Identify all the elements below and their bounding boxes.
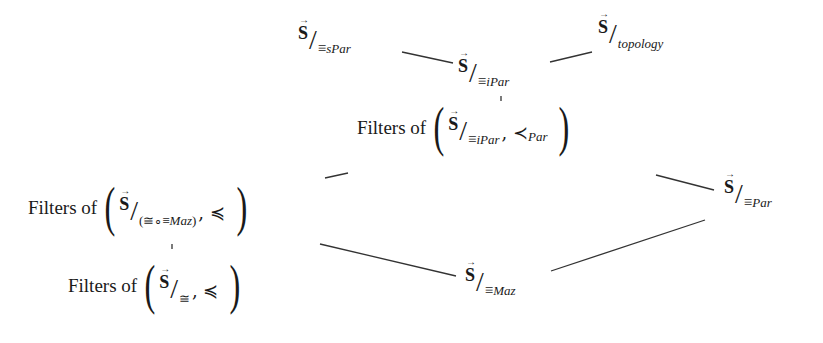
node-par: S / ≡Par xyxy=(724,176,772,204)
quotient-slash: / xyxy=(459,117,467,145)
quotient-slash: / xyxy=(130,197,138,225)
relation: , ≺Par xyxy=(502,124,548,142)
vector-s: S xyxy=(448,115,458,133)
node-spar: S / ≡sPar xyxy=(298,22,351,50)
subscript: ≡sPar xyxy=(318,41,351,56)
quotient-slash: / xyxy=(476,268,484,296)
edge-maz-par xyxy=(551,220,705,271)
quotient-slash: / xyxy=(469,59,477,87)
right-paren: ) xyxy=(230,258,241,312)
quotient-slash: / xyxy=(735,180,743,208)
node-maz: S / ≡Maz xyxy=(465,264,516,292)
left-paren: ( xyxy=(145,258,156,312)
relation: , ≼ xyxy=(192,282,218,300)
subscript: ≡iPar xyxy=(468,132,500,147)
left-paren: ( xyxy=(105,180,116,234)
quotient: S / ≅ xyxy=(159,271,190,299)
quotient-slash: / xyxy=(609,20,617,48)
subscript: topology xyxy=(618,37,664,50)
quotient: S / ≡iPar xyxy=(448,113,499,141)
node-filters-ipar: Filters of ( S / ≡iPar , ≺Par ) xyxy=(357,100,573,154)
relation: , ≼ xyxy=(198,204,224,222)
right-paren: ) xyxy=(559,100,570,154)
quotient-slash: / xyxy=(309,26,317,54)
left-paren: ( xyxy=(434,100,445,154)
vector-s: S xyxy=(458,57,468,75)
edge-filters-ipar-par xyxy=(656,175,714,190)
node-filters-congmaz: Filters of ( S / (≅∘≡Maz) , ≼ ) xyxy=(28,180,251,234)
subscript: (≅∘≡Maz) xyxy=(139,214,196,227)
subscript: ≅ xyxy=(179,292,190,305)
subscript: ≡Maz xyxy=(485,283,516,298)
filters-label: Filters of xyxy=(357,118,426,137)
quotient-slash: / xyxy=(170,275,178,303)
vector-s: S xyxy=(724,178,734,196)
node-topology: S / topology xyxy=(598,16,663,44)
edge-ipar-topology xyxy=(550,52,592,62)
right-paren: ) xyxy=(236,180,247,234)
node-filters-cong: Filters of ( S / ≅ , ≼ ) xyxy=(68,258,244,312)
edge-filters-congmaz-maz xyxy=(320,244,456,276)
vector-s: S xyxy=(298,24,308,42)
vector-s: S xyxy=(159,273,169,291)
subscript: ≡Par xyxy=(744,195,772,210)
edge-spar-ipar xyxy=(402,52,453,63)
edge-filters-congmaz-filters-ipar xyxy=(325,173,348,178)
vector-s: S xyxy=(598,18,608,36)
filters-label: Filters of xyxy=(28,198,97,217)
vector-s: S xyxy=(119,195,129,213)
filters-label: Filters of xyxy=(68,276,137,295)
subscript: ≡iPar xyxy=(478,74,510,89)
node-ipar: S / ≡iPar xyxy=(458,55,509,83)
quotient: S / (≅∘≡Maz) xyxy=(119,193,196,221)
vector-s: S xyxy=(465,266,475,284)
